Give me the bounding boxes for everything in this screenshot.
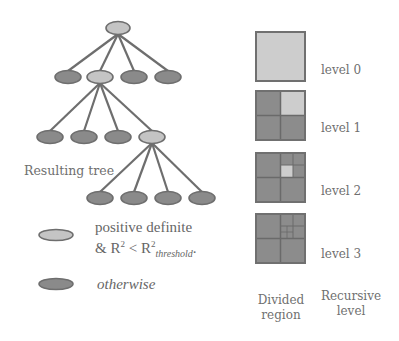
tree-node-l1-1 — [55, 71, 81, 84]
legend-light-label: positive definite & R2 < R2threshold. — [95, 219, 197, 262]
caption-line: Recursive — [316, 289, 386, 304]
legend-text-part: & R — [95, 240, 120, 256]
tree-node-l1-4 — [155, 71, 181, 84]
caption-line: region — [250, 308, 312, 323]
divided-region-caption: Divided region — [250, 293, 312, 323]
tree-node-l3-1 — [87, 192, 113, 205]
tree-node-l3-2 — [121, 192, 147, 205]
tree-node-root — [106, 22, 130, 35]
legend-text-sub: threshold — [155, 248, 192, 259]
level-0-label: level 0 — [321, 63, 361, 77]
legend-dark-text: otherwise — [97, 276, 155, 292]
tree-node-l1-3 — [121, 71, 147, 84]
tree-caption: Resulting tree — [24, 163, 114, 178]
legend-text-part: < R — [125, 240, 151, 256]
region-level-3 — [256, 214, 305, 263]
tree-node-l2-2 — [71, 131, 97, 144]
legend-text-part: . — [193, 240, 197, 256]
legend-dark-node-icon — [39, 279, 73, 290]
caption-line: level — [316, 304, 386, 319]
region-level-0 — [256, 32, 305, 81]
tree-node-l3-4 — [189, 192, 215, 205]
caption-line: Divided — [250, 293, 312, 308]
legend-light-node-icon — [39, 230, 73, 241]
level-3-label: level 3 — [321, 247, 361, 261]
level-2-label: level 2 — [321, 184, 361, 198]
legend-dark-label: otherwise — [97, 276, 155, 293]
legend-light-line1: positive definite — [95, 219, 197, 236]
tree-node-l2-1 — [37, 131, 63, 144]
tree-node-l2-3 — [105, 131, 131, 144]
tree-node-l3-3 — [155, 192, 181, 205]
legend-light-line2: & R2 < R2threshold. — [95, 236, 197, 262]
tree-node-l2-4 — [139, 131, 165, 144]
level-1-label: level 1 — [321, 121, 361, 135]
tree-node-l1-2 — [87, 71, 113, 84]
region-level-1 — [256, 91, 305, 140]
region-level-2 — [256, 153, 305, 202]
recursive-level-caption: Recursive level — [316, 289, 386, 319]
